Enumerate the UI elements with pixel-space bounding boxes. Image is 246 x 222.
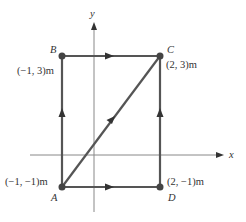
x-axis-arrow-icon xyxy=(216,152,224,158)
point-c-name: C xyxy=(167,45,174,56)
x-axis-label: x xyxy=(229,150,234,161)
y-axis-label: y xyxy=(90,9,95,20)
path-diagram xyxy=(0,0,246,222)
point-c xyxy=(157,53,164,60)
point-a-coord: (−1, −1)m xyxy=(5,177,48,188)
point-b xyxy=(59,53,66,60)
arrow-a-c-icon xyxy=(107,116,116,124)
point-c-coord: (2, 3)m xyxy=(166,60,197,71)
point-d xyxy=(157,184,164,191)
point-d-coord: (2, −1)m xyxy=(167,177,204,188)
point-d-name: D xyxy=(168,193,176,204)
arrow-b-c-icon xyxy=(105,53,114,60)
point-a xyxy=(59,184,66,191)
arrow-a-b-icon xyxy=(59,108,66,117)
point-b-coord: (−1, 3)m xyxy=(17,66,54,77)
point-b-name: B xyxy=(50,45,56,56)
arrow-d-c-icon xyxy=(157,108,164,117)
point-a-name: A xyxy=(51,193,57,204)
y-axis-arrow-icon xyxy=(91,22,97,30)
arrow-a-d-icon xyxy=(105,184,114,191)
